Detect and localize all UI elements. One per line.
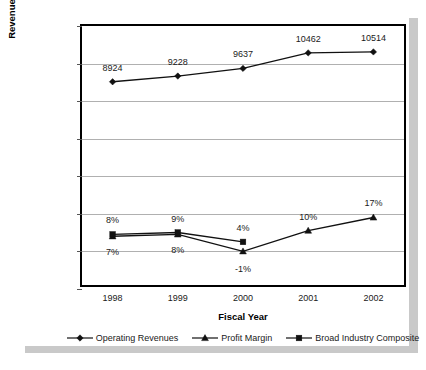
figure-shadow-right xyxy=(409,18,418,352)
y-axis-tick xyxy=(77,139,82,140)
data-point-label: -1% xyxy=(221,265,265,274)
legend-marker-icon xyxy=(192,333,218,343)
y-axis-tick xyxy=(77,101,82,102)
data-point-label: 8924 xyxy=(91,64,135,73)
chart-legend: Operating RevenuesProfit MarginBroad Ind… xyxy=(80,333,406,343)
data-point-label: 4% xyxy=(221,224,265,233)
figure-shadow-bottom xyxy=(25,345,418,353)
data-point-label: 17% xyxy=(351,199,395,208)
y-axis-title: Revenue & Expense (millions) xyxy=(6,0,17,56)
legend-label: Operating Revenues xyxy=(96,333,179,343)
gridline xyxy=(82,101,404,102)
x-axis-tick-label: 2001 xyxy=(283,293,333,303)
gridline xyxy=(82,176,404,177)
y-axis-tick xyxy=(77,289,82,290)
data-point-label: 7% xyxy=(91,248,135,257)
data-point-label: 8% xyxy=(156,246,200,255)
y-axis-tick xyxy=(77,176,82,177)
legend-entry[interactable]: Profit Margin xyxy=(192,333,272,343)
y-axis-tick xyxy=(77,64,82,65)
data-point-label: 10462 xyxy=(286,35,330,44)
x-axis-tick-label: 1998 xyxy=(88,293,138,303)
data-point-label: 10514 xyxy=(351,34,395,43)
data-point-label: 9228 xyxy=(156,58,200,67)
legend-marker-icon xyxy=(67,333,93,343)
chart-figure: Revenue & Expense (millions) 12000100008… xyxy=(0,0,426,370)
y-axis-tick xyxy=(77,214,82,215)
y-axis-tick xyxy=(77,251,82,252)
x-axis-tick-label: 1999 xyxy=(153,293,203,303)
gridline xyxy=(82,139,404,140)
figure-canvas: Revenue & Expense (millions) 12000100008… xyxy=(12,6,409,346)
legend-entry[interactable]: Broad Industry Composite xyxy=(286,333,419,343)
data-point-label: 9637 xyxy=(221,50,265,59)
y-axis-tick xyxy=(77,26,82,27)
x-axis-tick-label: 2000 xyxy=(218,293,268,303)
legend-entry[interactable]: Operating Revenues xyxy=(67,333,179,343)
data-point-label: 9% xyxy=(156,215,200,224)
legend-label: Profit Margin xyxy=(221,333,272,343)
legend-marker-icon xyxy=(286,333,312,343)
data-point-label: 8% xyxy=(91,216,135,225)
legend-label: Broad Industry Composite xyxy=(315,333,419,343)
x-axis-tick-label: 2002 xyxy=(348,293,398,303)
gridline xyxy=(82,214,404,215)
x-axis-title: Fiscal Year xyxy=(80,311,406,322)
data-point-label: 10% xyxy=(286,213,330,222)
